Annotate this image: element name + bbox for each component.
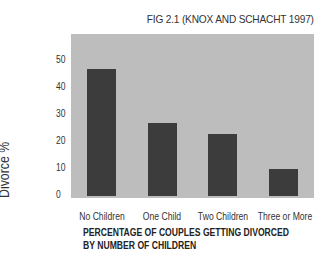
y-tick-0: 0 <box>56 189 68 200</box>
x-tick-no-children: No Children <box>73 210 130 222</box>
figure-caption: FIG 2.1 (KNOX AND SCHACHT 1997) <box>147 13 314 25</box>
chart-title-line-1: PERCENTAGE OF COUPLES GETTING DIVORCED <box>83 226 289 239</box>
x-tick-three-or-more: Three or More <box>256 210 313 222</box>
bar-no-children <box>87 69 116 196</box>
x-tick-one-child: One Child <box>133 210 190 222</box>
plot-area <box>71 34 314 198</box>
y-tick-20: 20 <box>56 135 68 146</box>
bar-one-child <box>148 123 177 196</box>
y-tick-30: 30 <box>56 108 68 119</box>
bar-three-or-more <box>269 169 298 196</box>
chart-title: PERCENTAGE OF COUPLES GETTING DIVORCED B… <box>83 226 289 252</box>
bar-two-children <box>208 134 237 196</box>
y-tick-10: 10 <box>56 162 68 173</box>
y-axis-label: Divorce % <box>0 142 12 198</box>
y-tick-50: 50 <box>56 54 68 65</box>
y-tick-40: 40 <box>56 81 68 92</box>
x-tick-two-children: Two Children <box>194 210 251 222</box>
chart-title-line-2: BY NUMBER OF CHILDREN <box>83 239 289 252</box>
